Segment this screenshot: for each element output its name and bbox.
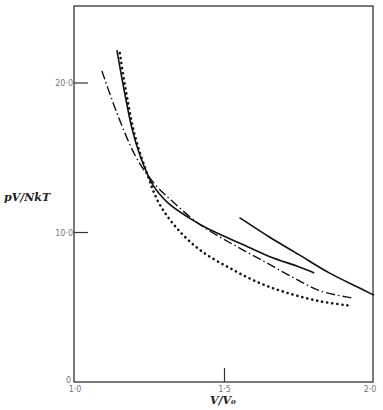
y-tick-label: 20·0 [55,79,73,88]
pv-nkt-chart: 1·01·52·0010·020·0 pV/NkT V/V₀ [0,0,383,410]
y-axis-label: pV/NkT [4,191,51,204]
y-tick-label: 0 [66,376,71,385]
curves-group [102,50,374,306]
dotted-curve [120,53,350,306]
solid-curve-a [117,50,314,273]
y-tick-label: 10·0 [55,229,73,238]
ticks-group: 1·01·52·0010·020·0 [55,79,376,394]
x-tick-label: 2·0 [364,385,377,394]
x-tick-label: 1·0 [69,385,82,394]
x-tick-label: 1·5 [218,385,231,394]
x-axis-label: V/V₀ [210,394,236,407]
